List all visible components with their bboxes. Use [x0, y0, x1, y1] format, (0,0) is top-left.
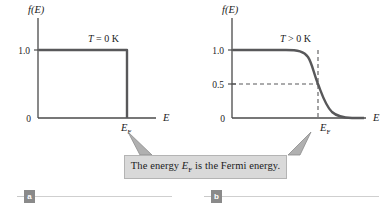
panel-badge-b: b [211, 190, 222, 203]
panel-b-ytick-label-0: 0 [220, 114, 225, 124]
panel-b-ytick-label-1: 1.0 [212, 46, 224, 56]
panel-a-x-axis-label: E [162, 112, 170, 123]
panel-markers: a b [0, 186, 389, 214]
panel-b-condition-label: T > 0 K [280, 33, 312, 44]
panel-a-xtick-label-ef: EF [120, 122, 131, 136]
fermi-distribution-figure: 1.0 0 f(E) E EF T = 0 K [0, 0, 389, 214]
caption-suffix: is the Fermi energy. [192, 160, 280, 171]
panel-b-y-axis-label: f(E) [222, 4, 239, 16]
caption-prefix: The energy [131, 160, 182, 171]
panel-badge-a: a [24, 190, 35, 203]
panel-b-x-axis-label: E [372, 112, 380, 123]
panel-a-ytick-label-1: 1.0 [18, 46, 30, 56]
panel-a-step-curve [39, 50, 127, 118]
panel-marker-b: b [204, 186, 379, 206]
panel-a-plot: 1.0 0 f(E) E EF T = 0 K [0, 0, 195, 145]
panel-a-y-axis-label: f(E) [28, 4, 45, 16]
panel-b-xtick-label-ef: EF [319, 122, 330, 136]
panel-b: 1.0 0.5 0 f(E) E EF T > 0 K [194, 0, 389, 145]
panel-marker-b-lead [204, 196, 211, 197]
panel-b-ytick-label-half: 0.5 [212, 80, 224, 90]
panel-a-condition-label: T = 0 K [88, 33, 120, 44]
panel-a: 1.0 0 f(E) E EF T = 0 K [0, 0, 195, 145]
caption-text: The energy EF is the Fermi energy. [131, 160, 280, 174]
panel-a-ytick-label-0: 0 [26, 114, 31, 124]
panel-b-plot: 1.0 0.5 0 f(E) E EF T > 0 K [194, 0, 389, 145]
panel-marker-b-rule [222, 196, 379, 197]
panel-marker-a-lead [17, 196, 24, 197]
caption-callout-box: The energy EF is the Fermi energy. [124, 155, 287, 179]
panel-marker-a: a [17, 186, 172, 206]
panel-marker-a-rule [35, 196, 172, 197]
